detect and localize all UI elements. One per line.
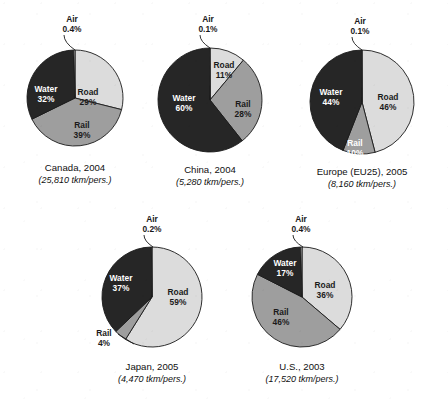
callout-label-air: Air [295, 214, 307, 224]
callout-value-air: 0.1% [350, 26, 370, 36]
callout-label-air: Air [146, 214, 158, 224]
caption-title-us: U.S., 2003 [279, 361, 324, 372]
caption-title-japan: Japan, 2005 [126, 361, 179, 372]
callout-value-air: 0.4% [291, 224, 311, 234]
slice-value-rail: 46% [273, 317, 290, 327]
slice-label-water: Water [274, 258, 298, 268]
callout-label-air: Air [202, 14, 214, 24]
slice-value-water: 32% [38, 94, 55, 104]
slice-label-rail: Rail [273, 307, 288, 317]
slice-value-water: 44% [323, 97, 340, 107]
slice-value-rail: 10% [347, 148, 364, 158]
caption-sub-europe: (8,160 tkm/pers.) [328, 179, 396, 189]
slice-label-water: Water [173, 93, 197, 103]
caption-sub-japan: (4,470 tkm/pers.) [118, 374, 186, 384]
slice-value-road: 36% [317, 290, 334, 300]
callout-value-air: 0.2% [142, 224, 162, 234]
slice-value-rail: 39% [74, 130, 91, 140]
slice-label-road: Road [78, 87, 99, 97]
caption-sub-canada: (25,810 tkm/pers.) [38, 175, 111, 185]
slice-label-rail: Rail [235, 99, 250, 109]
slice-label-water: Water [110, 273, 134, 283]
slice-value-road: 59% [170, 297, 187, 307]
slice-value-road: 29% [80, 97, 97, 107]
transport-modal-split-pie-panel: Road29%Rail39%Water32%Air0.4%Road11%Rail… [0, 0, 448, 406]
slice-value-water: 60% [176, 103, 193, 113]
callout-value-rail: 4% [98, 338, 111, 348]
caption-sub-us: (17,520 tkm/pers.) [265, 374, 338, 384]
slice-label-rail: Rail [74, 120, 89, 130]
caption-title-china: China, 2004 [184, 164, 236, 175]
slice-value-road: 11% [216, 70, 233, 80]
slice-label-road: Road [378, 92, 399, 102]
caption-sub-china: (5,280 tkm/pers.) [176, 177, 244, 187]
callout-value-air: 0.4% [62, 24, 82, 34]
slice-value-rail: 28% [235, 109, 252, 119]
slice-value-water: 37% [113, 283, 130, 293]
callout-label-air: Air [354, 16, 366, 26]
pie-slice-air[interactable] [151, 247, 152, 297]
slice-label-road: Road [168, 287, 189, 297]
caption-title-canada: Canada, 2004 [45, 162, 106, 173]
slice-label-water: Water [35, 84, 59, 94]
slice-value-road: 46% [380, 102, 397, 112]
slice-value-water: 17% [277, 268, 294, 278]
slice-label-road: Road [214, 60, 235, 70]
slice-label-road: Road [315, 280, 336, 290]
caption-title-europe: Europe (EU25), 2005 [317, 166, 408, 177]
callout-label-rail: Rail [96, 328, 111, 338]
slice-label-rail: Rail [347, 138, 362, 148]
slice-label-water: Water [320, 87, 344, 97]
callout-label-air: Air [66, 14, 78, 24]
callout-value-air: 0.1% [198, 24, 218, 34]
